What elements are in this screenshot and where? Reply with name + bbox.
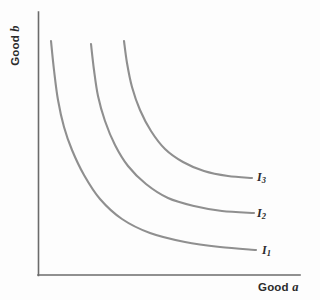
- indifference-curve-i2: [91, 44, 254, 213]
- curve-label-i3-base: I: [257, 170, 262, 184]
- indifference-curve-i3: [124, 41, 252, 178]
- axes-group: [38, 12, 300, 276]
- y-axis-label: Good b: [8, 18, 23, 74]
- x-axis-label-text: Good: [258, 281, 292, 293]
- curve-label-i2-base: I: [257, 206, 262, 220]
- curve-label-i2-subscript: 2: [262, 211, 266, 221]
- indifference-curve-figure: Good b Good a I3 I2 I1: [0, 0, 320, 300]
- y-axis-label-text: Good: [9, 32, 21, 66]
- curve-label-i1-subscript: 1: [267, 248, 271, 258]
- curves-group: [51, 41, 256, 250]
- curve-label-i2: I2: [257, 206, 266, 221]
- curve-label-i3-subscript: 3: [262, 175, 266, 185]
- indifference-curve-i1: [51, 41, 256, 250]
- x-axis-label: Good a: [258, 280, 299, 295]
- curve-label-i3: I3: [257, 170, 266, 185]
- y-axis-label-variable: b: [8, 25, 22, 31]
- curve-label-i1-base: I: [262, 243, 267, 257]
- curve-label-i1: I1: [262, 243, 271, 258]
- plot-canvas: [0, 0, 320, 300]
- x-axis-label-variable: a: [292, 280, 298, 294]
